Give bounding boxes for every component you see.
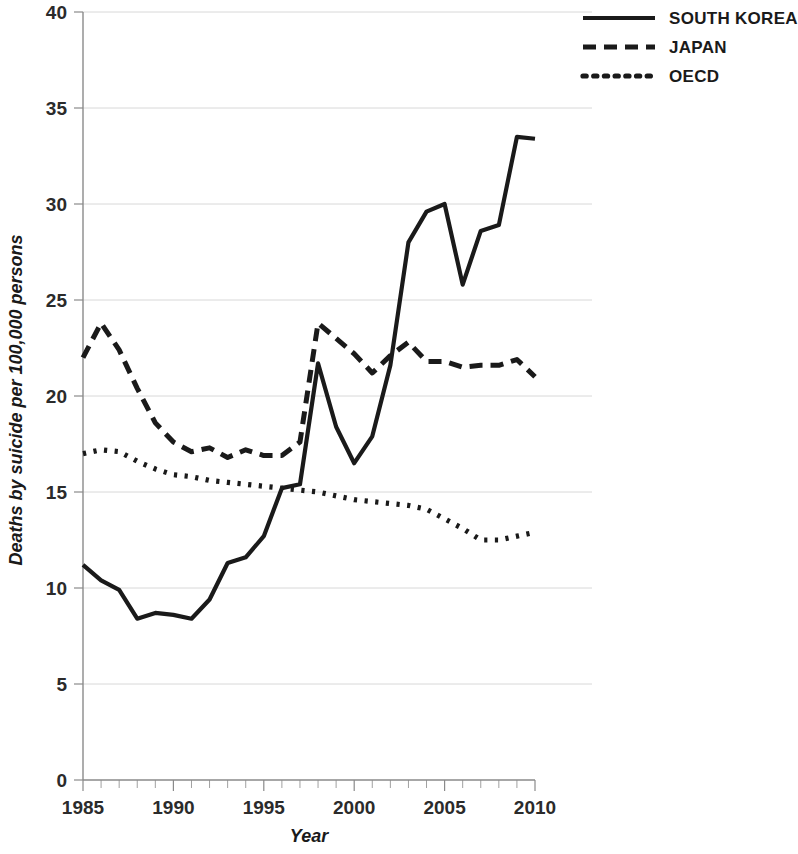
y-tick-label: 15	[46, 482, 68, 503]
legend: SOUTH KOREAJAPANOECD	[583, 9, 798, 86]
legend-label-japan: JAPAN	[669, 38, 727, 57]
y-tick-label: 10	[46, 578, 67, 599]
gridlines	[83, 12, 592, 684]
y-axis-title: Deaths by suicide per 100,000 persons	[6, 234, 26, 565]
x-axis-tick-marks	[83, 780, 535, 791]
series-line-oecd	[83, 450, 535, 540]
line-chart-svg: 0510152025303540 19851990199520002005201…	[0, 0, 798, 854]
x-axis-tick-labels: 198519901995200020052010	[62, 797, 556, 818]
x-tick-label: 2005	[423, 797, 466, 818]
y-axis-tick-marks	[74, 12, 83, 780]
y-tick-label: 25	[46, 290, 68, 311]
legend-label-south-korea: SOUTH KOREA	[669, 9, 798, 28]
y-axis-tick-labels: 0510152025303540	[46, 2, 68, 791]
y-tick-label: 0	[56, 770, 67, 791]
y-tick-label: 40	[46, 2, 67, 23]
x-tick-label: 2010	[514, 797, 556, 818]
x-axis-title: Year	[290, 826, 329, 846]
y-tick-label: 5	[56, 674, 67, 695]
x-tick-label: 1990	[152, 797, 194, 818]
chart-figure: 0510152025303540 19851990199520002005201…	[0, 0, 798, 854]
data-series-group	[83, 137, 535, 619]
x-tick-label: 1995	[243, 797, 286, 818]
y-tick-label: 30	[46, 194, 67, 215]
x-tick-label: 1985	[62, 797, 105, 818]
y-tick-label: 20	[46, 386, 67, 407]
legend-label-oecd: OECD	[669, 67, 719, 86]
y-tick-label: 35	[46, 98, 68, 119]
x-tick-label: 2000	[333, 797, 375, 818]
